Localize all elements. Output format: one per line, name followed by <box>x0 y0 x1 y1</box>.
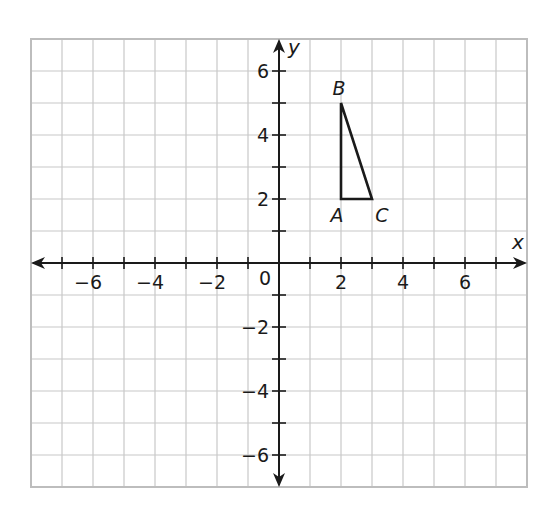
x-tick-label: −2 <box>198 271 226 293</box>
x-tick-label: 2 <box>335 271 347 293</box>
y-tick-label: 2 <box>257 188 269 210</box>
coordinate-plane: −6−4−2246642−2−4−6 ABC x y 0 <box>0 0 533 515</box>
x-tick-label: −6 <box>74 271 102 293</box>
origin-label: 0 <box>259 267 271 289</box>
y-tick-label: −6 <box>241 444 269 466</box>
vertex-label-a: A <box>329 204 344 226</box>
vertex-label-b: B <box>332 77 345 99</box>
vertex-label-c: C <box>375 204 389 226</box>
triangle-polygon <box>341 103 372 199</box>
y-tick-label: 4 <box>257 124 269 146</box>
y-axis-label: y <box>287 35 301 59</box>
y-tick-label: 6 <box>257 60 269 82</box>
y-tick-label: −2 <box>241 316 269 338</box>
y-tick-label: −4 <box>241 380 269 402</box>
x-tick-label: 6 <box>459 271 471 293</box>
x-axis-label: x <box>511 230 524 254</box>
axes <box>31 39 527 487</box>
x-tick-label: 4 <box>397 271 409 293</box>
x-tick-label: −4 <box>136 271 164 293</box>
triangle-abc: ABC <box>329 77 390 226</box>
